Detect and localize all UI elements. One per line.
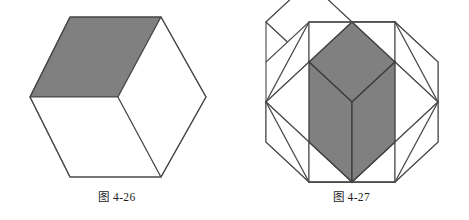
caption-figure-4-26: 图 4-26 bbox=[0, 188, 234, 204]
final-tiling bbox=[266, 0, 438, 182]
caption-figure-4-27: 图 4-27 bbox=[234, 188, 469, 204]
figure-panel-4-27: 图 4-27 bbox=[234, 0, 469, 220]
figure-4-26-drawing bbox=[0, 0, 234, 190]
figure-4-27-drawing bbox=[234, 0, 469, 190]
figure-board: 图 4-26 bbox=[0, 0, 469, 220]
figure-panel-4-26: 图 4-26 bbox=[0, 0, 234, 220]
